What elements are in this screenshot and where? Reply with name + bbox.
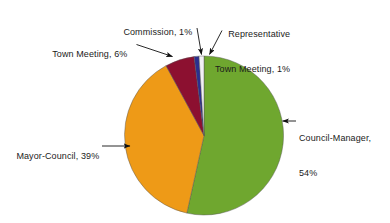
leader-line-commission bbox=[197, 28, 202, 55]
slice-label-council-manager-line2: 54% bbox=[299, 168, 371, 180]
slice-label-mayor-council: Mayor-Council, 39% bbox=[6, 139, 99, 174]
slice-label-representative-town-meeting: Representative Town Meeting, 1% bbox=[215, 6, 290, 98]
slice-label-town-meeting-text: Town Meeting, 6% bbox=[52, 49, 127, 59]
slice-label-commission-text: Commission, 1% bbox=[123, 27, 192, 37]
pie-chart: Town Meeting, 6% Commission, 1% Represen… bbox=[0, 0, 390, 223]
slice-label-council-manager-line1: Council-Manager, bbox=[299, 133, 371, 145]
slice-label-council-manager: Council-Manager, 54% bbox=[299, 110, 371, 202]
slice-label-representative-town-meeting-line2: Town Meeting, 1% bbox=[215, 64, 290, 76]
slice-label-representative-town-meeting-line1: Representative bbox=[215, 29, 290, 41]
slice-label-commission: Commission, 1% bbox=[113, 15, 192, 50]
slice-label-mayor-council-text: Mayor-Council, 39% bbox=[16, 151, 99, 161]
